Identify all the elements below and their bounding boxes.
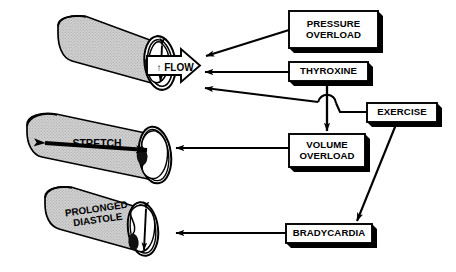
box-thyroxine[interactable] bbox=[289, 62, 373, 86]
diagram-canvas: PRESSURE OVERLOAD THYROXINE EXERCISE VOL… bbox=[0, 0, 456, 272]
cylinder-label-flow: ↑ FLOW bbox=[150, 62, 200, 74]
box-bradycardia[interactable] bbox=[286, 224, 377, 248]
box-exercise[interactable] bbox=[367, 103, 442, 127]
box-pressure-overload[interactable] bbox=[289, 11, 383, 53]
arrow-pressure-to-flow bbox=[206, 30, 289, 56]
box-volume-overload[interactable] bbox=[289, 134, 370, 172]
arrow-exercise-to-flow bbox=[336, 103, 367, 112]
flow-cylinder bbox=[58, 16, 200, 92]
cylinder-label-stretch: STRETCH bbox=[60, 138, 134, 150]
diagram-svg bbox=[0, 0, 456, 272]
